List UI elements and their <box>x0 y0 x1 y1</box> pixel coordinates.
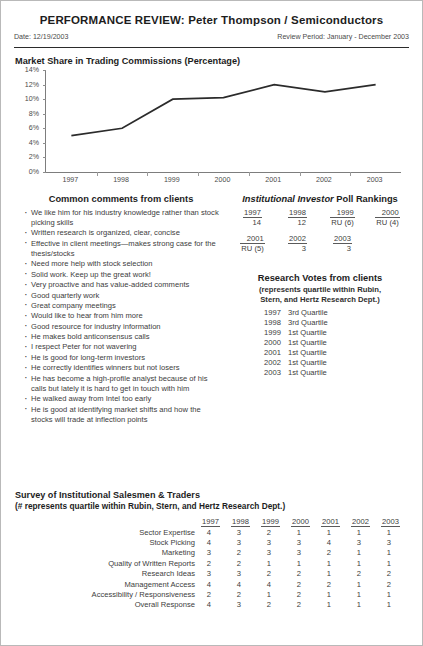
research-vote-row: 20031st Quartile <box>264 368 418 378</box>
client-comment-item: He is good at identifying market shifts … <box>23 405 219 425</box>
client-comment-item: I respect Peter for not wavering <box>23 342 219 352</box>
survey-column-header: 1999 <box>261 517 291 527</box>
poll-ranking-cell: 20033 <box>333 234 352 254</box>
survey-cell-value: 1 <box>321 569 351 579</box>
survey-cell-value: 1 <box>351 559 381 569</box>
survey-cell-value: 4 <box>201 580 231 590</box>
table-row: Quality of Written Reports2211111 <box>15 559 411 569</box>
right-column: Institutional Investor Poll Rankings 199… <box>222 194 418 378</box>
survey-column-header: 2001 <box>321 517 351 527</box>
survey-cell-value: 3 <box>201 569 231 579</box>
chart-y-tick-mark <box>43 85 46 86</box>
document-meta: Date: 12/19/2003 Review Period: January … <box>14 33 409 46</box>
research-votes-list: 19973rd Quartile19983rd Quartile19991st … <box>222 308 418 379</box>
survey-cell-value: 1 <box>321 559 351 569</box>
survey-cell-value: 1 <box>291 559 321 569</box>
poll-ranking-value: 14 <box>243 218 262 228</box>
survey-cell-value: 1 <box>381 600 411 610</box>
poll-ranking-value: RU (6) <box>330 218 354 228</box>
research-vote-row: 20011st Quartile <box>264 348 418 358</box>
survey-cell-value: 4 <box>321 538 351 548</box>
survey-cell-value: 2 <box>321 548 351 558</box>
survey-row-label: Overall Response <box>15 600 201 610</box>
survey-cell-value: 4 <box>231 580 261 590</box>
poll-heading-publication: Institutional Investor <box>242 194 333 204</box>
survey-table: 1997199819992000200120022003 Sector Expe… <box>15 517 411 611</box>
client-comment-item: Solid work. Keep up the great work! <box>23 270 219 280</box>
survey-cell-value: 1 <box>321 600 351 610</box>
survey-cell-value: 3 <box>231 600 261 610</box>
survey-cell-value: 2 <box>201 559 231 569</box>
chart-x-axis-labels: 1997199819992000200120022003 <box>45 176 401 188</box>
client-comment-item: Need more help with stock selection <box>23 259 219 269</box>
chart-title: Market Share in Trading Commissions (Per… <box>15 56 422 66</box>
research-vote-year: 1998 <box>264 318 288 328</box>
client-comments-heading: Common comments from clients <box>23 194 219 204</box>
chart-y-tick-label: 2% <box>29 153 39 161</box>
survey-cell-value: 3 <box>261 548 291 558</box>
survey-column-header: 1997 <box>201 517 231 527</box>
research-vote-year: 1999 <box>264 328 288 338</box>
chart-y-tick-label: 8% <box>29 110 39 118</box>
survey-cell-value: 2 <box>261 528 291 538</box>
survey-column-header: 1998 <box>231 517 261 527</box>
survey-cell-value: 2 <box>291 580 321 590</box>
survey-cell-value: 3 <box>291 548 321 558</box>
survey-cell-value: 1 <box>381 548 411 558</box>
poll-ranking-cell: 2001RU (5) <box>240 234 264 254</box>
survey-cell-value: 1 <box>351 580 381 590</box>
client-comments-section: Common comments from clients We like him… <box>23 194 219 425</box>
research-votes-subtitle-line1: (represents quartile within Rubin, <box>222 285 418 295</box>
table-row: Management Access4442212 <box>15 580 411 590</box>
survey-cell-value: 1 <box>351 528 381 538</box>
survey-cell-value: 1 <box>351 600 381 610</box>
client-comment-item: We like him for his industry knowledge r… <box>23 208 219 228</box>
client-comment-item: He walked away from Intel too early <box>23 394 219 404</box>
chart-x-tick-label: 2000 <box>215 176 231 184</box>
chart-y-tick-label: 12% <box>25 81 39 89</box>
research-votes-heading: Research Votes from clients <box>222 273 418 284</box>
poll-rankings-section: Institutional Investor Poll Rankings 199… <box>222 194 418 254</box>
chart-line-series <box>46 70 401 172</box>
research-vote-quartile: 1st Quartile <box>288 328 327 338</box>
client-comment-item: He is good for long-term investors <box>23 353 219 363</box>
table-row: Accessibility / Responsiveness2212111 <box>15 590 411 600</box>
survey-subtitle: (# represents quartile within Rubin, Ste… <box>15 501 411 512</box>
chart-x-tick-label: 2001 <box>265 176 281 184</box>
research-vote-row: 19991st Quartile <box>264 328 418 338</box>
research-vote-year: 2000 <box>264 338 288 348</box>
client-comment-item: Would like to hear from him more <box>23 311 219 321</box>
survey-table-header-row: 1997199819992000200120022003 <box>15 517 411 527</box>
research-vote-quartile: 3rd Quartile <box>288 308 328 318</box>
chart-y-tick-label: 14% <box>25 66 39 74</box>
research-vote-year: 2001 <box>264 348 288 358</box>
survey-row-label: Accessibility / Responsiveness <box>15 590 201 600</box>
research-votes-section: Research Votes from clients (represents … <box>222 273 418 378</box>
poll-ranking-cell: 1999RU (6) <box>330 208 354 228</box>
survey-cell-value: 2 <box>351 569 381 579</box>
poll-ranking-value: RU (4) <box>375 218 399 228</box>
poll-ranking-value: 3 <box>333 244 352 254</box>
chart-y-tick-mark <box>43 114 46 115</box>
chart-plot-area <box>45 70 401 173</box>
research-vote-quartile: 1st Quartile <box>288 348 327 358</box>
poll-heading-rest: Poll Rankings <box>334 194 398 204</box>
chart-y-tick-label: 4% <box>29 139 39 147</box>
survey-cell-value: 1 <box>261 559 291 569</box>
table-row: Sector Expertise4321111 <box>15 528 411 538</box>
survey-column-header: 2000 <box>291 517 321 527</box>
poll-ranking-year: 2003 <box>333 234 352 244</box>
chart-x-tick-label: 2002 <box>316 176 332 184</box>
survey-cell-value: 1 <box>321 590 351 600</box>
research-vote-row: 19973rd Quartile <box>264 308 418 318</box>
performance-review-document: PERFORMANCE REVIEW: Peter Thompson / Sem… <box>0 0 423 646</box>
survey-cell-value: 1 <box>321 528 351 538</box>
client-comment-item: Great company meetings <box>23 301 219 311</box>
client-comments-list: We like him for his industry knowledge r… <box>23 208 219 425</box>
survey-column-header: 2003 <box>381 517 411 527</box>
chart-y-tick-label: 10% <box>25 95 39 103</box>
research-vote-row: 20021st Quartile <box>264 358 418 368</box>
chart-y-tick-label: 0% <box>29 168 39 176</box>
poll-ranking-year: 2002 <box>288 234 307 244</box>
chart-x-tick-label: 2003 <box>367 176 383 184</box>
